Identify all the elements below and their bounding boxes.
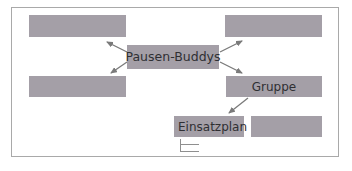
tree-connector-branch-2 bbox=[180, 151, 199, 152]
node-gruppe: Gruppe bbox=[226, 76, 322, 97]
node-pausen-buddys: Pausen-Buddys bbox=[127, 45, 219, 69]
tree-connector-branch-1 bbox=[180, 144, 199, 145]
node-einsatzplan: Einsatzplan bbox=[174, 116, 244, 137]
node-top-left bbox=[29, 15, 126, 37]
node-right-of-einsatzplan bbox=[251, 116, 322, 137]
node-bottom-left bbox=[29, 76, 126, 97]
node-top-right bbox=[225, 15, 322, 37]
